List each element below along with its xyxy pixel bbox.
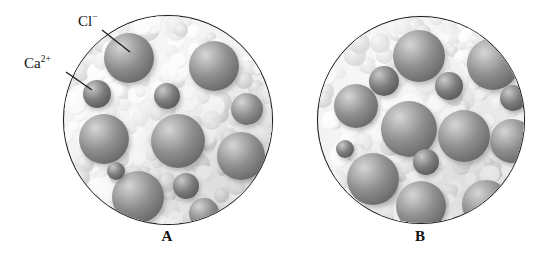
- leader-lines: [0, 0, 548, 272]
- figure-root: A B Cl− Ca2+: [0, 0, 548, 272]
- calcium-leader-line: [66, 72, 92, 90]
- chloride-leader-line: [102, 30, 130, 52]
